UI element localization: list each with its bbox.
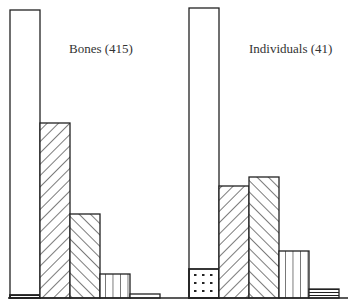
bar-base-segment xyxy=(189,269,219,298)
bar xyxy=(100,274,130,298)
bar xyxy=(40,123,70,298)
bar xyxy=(309,289,339,298)
bar xyxy=(189,8,219,298)
bar xyxy=(10,10,40,298)
bar xyxy=(219,186,249,298)
bones-title: Bones (415) xyxy=(69,41,133,56)
bar xyxy=(249,177,279,298)
bar xyxy=(279,251,309,298)
individuals-title: Individuals (41) xyxy=(249,41,332,56)
bar xyxy=(70,214,100,298)
bar-chart: Bones (415) Individuals (41) xyxy=(0,0,352,308)
